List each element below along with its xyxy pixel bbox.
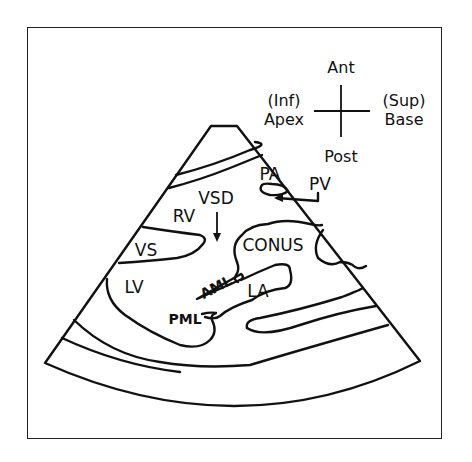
label-pv: PV: [309, 174, 331, 194]
label-conus: CONUS: [242, 235, 303, 255]
label-la: LA: [247, 281, 269, 301]
figure: Ant Post (Inf) Apex (Sup) Base: [0, 0, 472, 462]
vsd-arrow-head-icon: [213, 233, 221, 242]
pulmonary-valve-outline: [261, 184, 288, 196]
label-pa: PA: [260, 164, 281, 184]
posterior-wall-outer: [247, 306, 376, 332]
pericardium-band-2: [62, 338, 180, 372]
label-vsd: VSD: [198, 188, 234, 208]
label-aml: AML: [197, 272, 234, 302]
label-pml: PML: [168, 311, 201, 327]
ventricular-septum-outline: [119, 227, 205, 263]
aortic-root-wall: [235, 262, 238, 282]
echo-diagram: Ant Post (Inf) Apex (Sup) Base: [0, 0, 472, 462]
label-rv: RV: [173, 206, 196, 226]
orientation-base: Base: [385, 110, 424, 129]
orientation-inferior: (Inf): [268, 91, 301, 110]
label-vs: VS: [135, 240, 157, 260]
orientation-apex: Apex: [264, 110, 304, 129]
orientation-anterior: Ant: [327, 58, 354, 77]
orientation-superior: (Sup): [383, 91, 426, 110]
label-lv: LV: [124, 277, 144, 297]
chest-wall-boundary-2: [169, 155, 262, 188]
orientation-cross-icon: [314, 85, 370, 137]
orientation-posterior: Post: [324, 147, 357, 166]
